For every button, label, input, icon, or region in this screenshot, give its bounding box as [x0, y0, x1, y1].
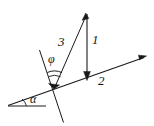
- angle-alpha-label: α: [30, 93, 36, 105]
- angle-phi-arc: [47, 71, 62, 73]
- vector-2-label: 2: [98, 74, 105, 87]
- vector-1-arrowhead: [84, 72, 91, 81]
- vector-3-shaft: [54, 17, 86, 89]
- vector-2-shaft: [8, 58, 144, 106]
- vector-1-label: 1: [92, 33, 99, 46]
- angle-phi-label: φ: [48, 53, 55, 65]
- vector-3-arrowhead: [82, 13, 89, 20]
- vector-3-label: 3: [58, 35, 65, 48]
- vector-diagram: 3 1 2 φ α: [0, 0, 154, 126]
- vector-2-arrowhead: [139, 55, 147, 60]
- angle-phi-arc-inner: [49, 75, 61, 76]
- diagram-canvas: [0, 0, 154, 126]
